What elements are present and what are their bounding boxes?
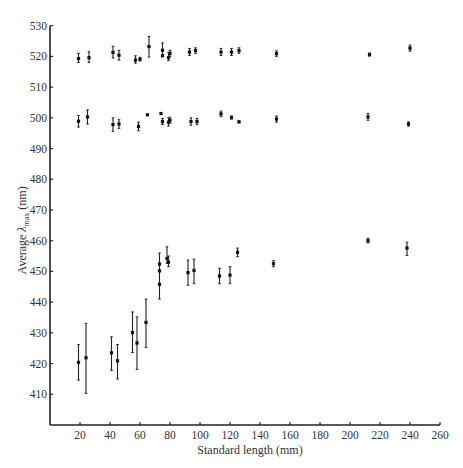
data-point: [77, 120, 80, 123]
data-point: [111, 51, 114, 54]
data-point: [77, 361, 80, 364]
data-point: [158, 283, 161, 286]
data-point: [168, 119, 171, 122]
y-tick-label: 490: [30, 143, 48, 155]
data-point: [146, 113, 149, 116]
data-point: [195, 120, 198, 123]
x-tick-label: 20: [74, 429, 86, 441]
data-point: [407, 122, 410, 125]
data-point: [168, 52, 171, 55]
x-tick-label: 80: [164, 429, 176, 441]
data-point: [86, 115, 89, 118]
data-point: [189, 120, 192, 123]
data-point: [117, 54, 120, 57]
data-point: [272, 262, 275, 265]
y-tick-label: 480: [30, 173, 48, 185]
y-tick-label: 520: [30, 50, 48, 62]
y-tick-label: 500: [30, 112, 48, 124]
data-point: [237, 49, 240, 52]
data-point: [194, 49, 197, 52]
data-point: [219, 112, 222, 115]
data-point: [366, 115, 369, 118]
axes: [50, 26, 440, 425]
data-point: [237, 120, 240, 123]
data-point: [147, 45, 150, 48]
x-tick-label: 120: [221, 429, 239, 441]
y-axis-title: Average λmax (nm): [15, 186, 31, 274]
y-tick-label: 470: [30, 204, 48, 216]
data-point: [228, 274, 231, 277]
data-point: [159, 112, 162, 115]
data-point: [161, 120, 164, 123]
data-point: [275, 117, 278, 120]
data-point: [219, 51, 222, 54]
data-point: [236, 251, 239, 254]
scatter-chart: 410420430440450460470480490500510520530 …: [0, 0, 463, 468]
data-point: [408, 47, 411, 50]
data-point: [230, 116, 233, 119]
data-point: [77, 57, 80, 60]
data-point: [230, 51, 233, 54]
x-tick-label: 240: [401, 429, 419, 441]
data-point: [405, 246, 408, 249]
data-marks: [77, 36, 412, 393]
data-point: [111, 123, 114, 126]
x-tick-label: 200: [341, 429, 359, 441]
data-point: [275, 52, 278, 55]
data-point: [167, 261, 170, 264]
data-point: [138, 58, 141, 61]
data-point: [131, 331, 134, 334]
data-point: [158, 269, 161, 272]
data-point: [137, 125, 140, 128]
data-point: [161, 49, 164, 52]
y-tick-label: 410: [30, 388, 48, 400]
data-point: [188, 51, 191, 54]
x-tick-label: 160: [281, 429, 299, 441]
data-point: [192, 269, 195, 272]
x-tick-label: 100: [191, 429, 209, 441]
x-tick-label: 140: [251, 429, 269, 441]
y-axis-title-subscript: max: [22, 213, 31, 227]
data-point: [368, 53, 371, 56]
y-axis-title-suffix: (nm): [15, 186, 29, 212]
data-point: [87, 56, 90, 59]
data-point: [110, 351, 113, 354]
series-2: [77, 110, 410, 132]
y-tick-label: 420: [30, 358, 48, 370]
data-point: [117, 122, 120, 125]
y-tick-label: 430: [30, 327, 48, 339]
x-tick-label: 220: [371, 429, 389, 441]
y-tick-label: 530: [30, 20, 48, 32]
x-axis-title: Standard length (mm): [197, 443, 302, 457]
data-point: [116, 359, 119, 362]
y-tick-label: 510: [30, 81, 48, 93]
series-1: [77, 36, 412, 63]
y-tick-label: 460: [30, 235, 48, 247]
data-point: [158, 262, 161, 265]
y-axis-title-prefix: Average: [15, 232, 29, 275]
data-point: [135, 341, 138, 344]
series-3: [77, 238, 409, 393]
data-point: [186, 271, 189, 274]
data-point: [218, 274, 221, 277]
x-tick-label: 40: [104, 429, 116, 441]
x-tick-label: 180: [311, 429, 329, 441]
data-point: [134, 59, 137, 62]
x-tick-label: 60: [134, 429, 146, 441]
y-tick-label: 440: [30, 296, 48, 308]
y-tick-label: 450: [30, 265, 48, 277]
data-point: [144, 321, 147, 324]
data-point: [84, 356, 87, 359]
data-point: [161, 54, 164, 57]
x-tick-label: 260: [431, 429, 449, 441]
data-point: [366, 239, 369, 242]
